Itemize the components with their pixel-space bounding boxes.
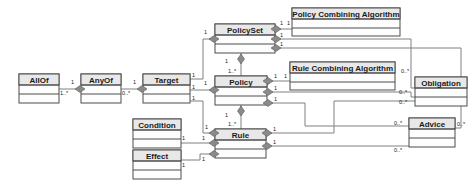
mult-target-to-rule: 1 xyxy=(192,95,195,101)
mult-advice-from-policyset: 0..* xyxy=(457,121,466,127)
diamond-policy-rule xyxy=(238,106,245,116)
mult-policy-rca-near: 1 xyxy=(274,73,277,79)
mult-policyset-pca-near: 1 xyxy=(280,20,283,26)
mult-rule-from-policy: 1..* xyxy=(228,121,237,127)
mult-policyset-to-policy: 1 xyxy=(225,58,228,64)
allof-label: AllOf xyxy=(29,76,48,85)
mult-rule-target-end: 1 xyxy=(205,124,208,130)
mult-target-left: 1 xyxy=(133,79,136,85)
class-box-allof[interactable]: AllOf xyxy=(19,74,59,103)
mult-allof-side: 1..* xyxy=(60,90,69,96)
mult-policyset-obligation-near: 1 xyxy=(280,32,283,38)
mult-anyof-right: 0..* xyxy=(122,90,131,96)
mult-condition-rule-end: 1 xyxy=(202,135,205,141)
class-box-target[interactable]: Target xyxy=(143,74,190,103)
mult-effect-rule-end: 1 xyxy=(202,156,205,162)
mult-rule-advice-near: 1 xyxy=(273,139,276,145)
mult-advice-from-rule: 0..* xyxy=(394,147,403,153)
rule-label: Rule xyxy=(232,131,250,140)
mult-policyset-target-end: 1 xyxy=(204,29,207,35)
link-policy-obligation xyxy=(267,92,415,97)
policyset-label: PolicySet xyxy=(227,26,263,35)
link-target-rule xyxy=(190,101,215,133)
mult-policy-to-rule: 1 xyxy=(225,112,228,118)
mult-advice-from-policy: 0..* xyxy=(394,120,403,126)
target-label: Target xyxy=(155,76,179,85)
mult-obligation-from-policyset: 0..* xyxy=(401,68,410,74)
class-box-rule[interactable]: Rule xyxy=(215,129,266,158)
mult-condition-right: 1 xyxy=(182,135,185,141)
condition-label: Condition xyxy=(138,121,175,130)
mult-rca-near: 1 xyxy=(284,73,287,79)
class-box-advice[interactable]: Advice xyxy=(409,118,455,147)
mult-policyset-advice-near: 1 xyxy=(280,41,283,47)
class-box-effect[interactable]: Effect xyxy=(133,150,181,179)
class-box-condition[interactable]: Condition xyxy=(133,119,181,148)
class-box-obligation[interactable]: Obligation xyxy=(415,77,467,106)
policy-label: Policy xyxy=(229,78,253,87)
mult-target-to-policyset: 1 xyxy=(192,72,195,78)
mult-target-to-policy: 1 xyxy=(192,84,195,90)
obligation-label: Obligation xyxy=(421,79,461,88)
class-box-anyof[interactable]: AnyOf xyxy=(81,74,121,103)
advice-label: Advice xyxy=(419,120,446,129)
pca-label: Policy Combining Algorithm xyxy=(292,10,399,19)
mult-rule-obligation-near: 1 xyxy=(273,126,276,132)
mult-anyof-left: 1 xyxy=(71,79,74,85)
mult-pca-near: 1 xyxy=(287,20,290,26)
class-box-policy-combining-algorithm[interactable]: Policy Combining Algorithm xyxy=(292,8,400,36)
diamond-policyset-policy xyxy=(238,54,245,64)
mult-obligation-from-rule: 0..* xyxy=(399,99,408,105)
mult-effect-right: 1 xyxy=(182,162,185,168)
effect-label: Effect xyxy=(146,152,169,161)
link-policy-advice xyxy=(267,103,409,126)
class-box-rule-combining-algorithm[interactable]: Rule Combining Algorithm xyxy=(290,62,395,90)
uml-class-diagram: AllOf AnyOf Target PolicySet xyxy=(0,0,473,188)
mult-obligation-from-policy: 0..* xyxy=(399,89,408,95)
class-box-policy[interactable]: Policy xyxy=(215,76,267,105)
class-box-policyset[interactable]: PolicySet xyxy=(215,24,275,53)
diagram-canvas: AllOf AnyOf Target PolicySet xyxy=(0,0,473,188)
mult-policy-advice-near: 1 xyxy=(274,96,277,102)
anyof-label: AnyOf xyxy=(89,76,113,85)
mult-policy-obligation-near: 1 xyxy=(274,85,277,91)
rca-label: Rule Combining Algorithm xyxy=(292,64,393,73)
mult-policy-target-end: 1 xyxy=(204,80,207,86)
mult-policy-from-policyset: 1..* xyxy=(228,68,237,74)
link-rule-obligation xyxy=(266,101,415,133)
